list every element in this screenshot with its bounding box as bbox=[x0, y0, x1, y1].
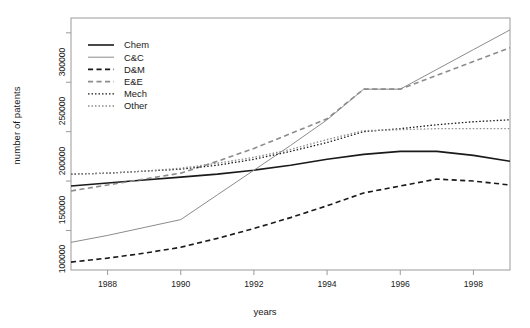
chart-legend: ChemC&CD&ME&EMechOther bbox=[88, 39, 149, 111]
series-line-chem bbox=[71, 151, 510, 186]
legend-label-mech: Mech bbox=[124, 88, 147, 99]
legend-label-chem: Chem bbox=[124, 39, 149, 50]
patents-line-chart: number of patents years 1000001500002000… bbox=[0, 0, 530, 328]
plot-area: ChemC&CD&ME&EMechOther bbox=[0, 0, 530, 328]
legend-label-d-m: D&M bbox=[124, 64, 145, 75]
legend-label-other: Other bbox=[124, 100, 147, 111]
legend-label-c-c: C&C bbox=[124, 52, 144, 63]
series-line-d-m bbox=[71, 179, 510, 262]
legend-label-e-e: E&E bbox=[124, 76, 143, 87]
